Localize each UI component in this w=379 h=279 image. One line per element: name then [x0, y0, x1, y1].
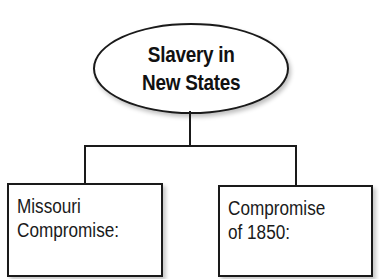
label-line-1: Compromise	[228, 196, 325, 220]
connector-horizontal-bar	[84, 145, 297, 147]
root-title-line-2: New States	[142, 69, 240, 97]
graphic-organizer: Slavery in New States Missouri Compromis…	[0, 0, 379, 279]
child-box-label: Compromise of 1850:	[228, 196, 325, 244]
child-box-missouri-compromise[interactable]: Missouri Compromise:	[7, 183, 163, 277]
label-line-2: of 1850:	[228, 220, 325, 244]
label-line-2: Compromise:	[17, 218, 119, 242]
child-box-compromise-of-1850[interactable]: Compromise of 1850:	[218, 185, 373, 277]
root-node-ellipse: Slavery in New States	[93, 23, 289, 114]
connector-left-drop	[84, 145, 86, 184]
child-box-label: Missouri Compromise:	[17, 194, 119, 242]
connector-right-drop	[295, 145, 297, 186]
label-line-1: Missouri	[17, 194, 119, 218]
root-node-title: Slavery in New States	[142, 41, 240, 97]
connector-root-stem	[189, 111, 191, 147]
root-title-line-1: Slavery in	[142, 41, 240, 69]
